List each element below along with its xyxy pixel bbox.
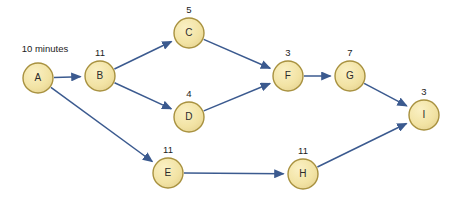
node-label-f: F	[285, 70, 291, 81]
node-label-i: I	[423, 109, 426, 120]
node-label-d: D	[185, 111, 192, 122]
node-duration-c: 5	[186, 4, 191, 15]
edge-c-f	[204, 39, 270, 68]
node-duration-g: 7	[347, 47, 352, 58]
nodes-layer: 10 minutesA11B5C4D11E3F7G11H3I	[22, 4, 439, 189]
node-e[interactable]: E	[153, 158, 183, 188]
node-b[interactable]: B	[85, 61, 115, 91]
network-diagram: 10 minutesA11B5C4D11E3F7G11H3I	[0, 0, 451, 201]
node-i[interactable]: I	[409, 100, 439, 130]
node-h[interactable]: H	[288, 159, 318, 189]
edge-e-h	[184, 173, 284, 174]
node-label-a: A	[35, 72, 42, 83]
node-label-h: H	[299, 168, 306, 179]
node-duration-d: 4	[186, 88, 191, 99]
node-duration-a: 10 minutes	[22, 43, 69, 54]
node-duration-h: 11	[298, 145, 308, 156]
edge-a-e	[51, 87, 152, 161]
node-label-e: E	[165, 167, 172, 178]
diagram-canvas: 10 minutesA11B5C4D11E3F7G11H3I	[0, 0, 451, 201]
node-duration-i: 3	[421, 86, 426, 97]
edge-b-d	[115, 83, 172, 109]
node-label-c: C	[185, 27, 192, 38]
node-duration-e: 11	[163, 144, 173, 155]
edge-b-c	[114, 41, 171, 69]
edges-layer	[51, 39, 407, 173]
edge-a-b	[54, 77, 81, 78]
node-g[interactable]: G	[335, 61, 365, 91]
node-f[interactable]: F	[273, 61, 303, 91]
node-a[interactable]: A	[23, 63, 53, 93]
edge-g-i	[364, 83, 407, 105]
edge-h-i	[317, 124, 406, 167]
node-duration-b: 11	[95, 47, 105, 58]
node-duration-f: 3	[285, 47, 290, 58]
edge-d-f	[204, 83, 270, 110]
node-d[interactable]: D	[174, 102, 204, 132]
node-label-g: G	[346, 70, 354, 81]
node-label-b: B	[97, 70, 104, 81]
node-c[interactable]: C	[174, 18, 204, 48]
